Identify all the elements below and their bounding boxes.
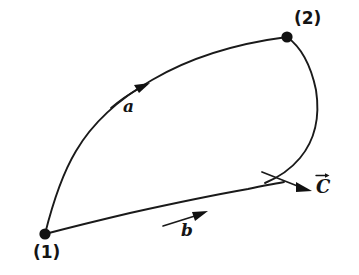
path-diagram-figure: (1) (2) a b C: [0, 0, 359, 275]
vector-c-head: [296, 182, 312, 192]
endpoint-dot-2: [281, 31, 292, 42]
vector-c-letter: C: [316, 176, 330, 197]
vector-c-glyph-wrap: C: [316, 178, 330, 196]
vector-label-c: C: [316, 178, 330, 196]
curve-right-return-arc: [265, 37, 317, 183]
point-label-1: (1): [33, 244, 60, 261]
diagram-canvas: [0, 0, 359, 275]
path-label-b: b: [181, 222, 193, 239]
path-label-a: a: [123, 98, 134, 115]
point-label-2: (2): [294, 10, 321, 27]
direction-arrow-b-head: [192, 211, 208, 221]
direction-arrow-a-head: [134, 83, 150, 93]
endpoint-dot-1: [39, 228, 50, 239]
